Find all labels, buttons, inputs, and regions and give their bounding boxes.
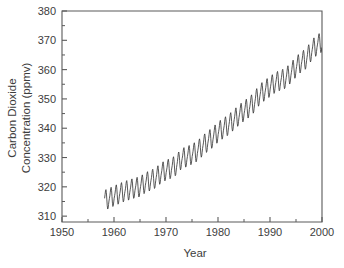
y-tick-label: 330 <box>38 152 56 164</box>
x-tick-label: 2000 <box>310 226 334 238</box>
chart-figure: 195019601970198019902000 310320330340350… <box>0 0 344 268</box>
y-tick-label: 340 <box>38 122 56 134</box>
x-tick-label: 1970 <box>154 226 178 238</box>
y-tick-label: 310 <box>38 210 56 222</box>
y-tick-label: 380 <box>38 5 56 17</box>
x-tick-label: 1960 <box>102 226 126 238</box>
x-axis-title: Year <box>183 247 206 259</box>
y-axis-title-line2: Concentration (ppmv) <box>20 63 32 174</box>
co2-concentration-line-chart: 195019601970198019902000 310320330340350… <box>0 0 344 268</box>
y-tick-label: 350 <box>38 93 56 105</box>
y-tick-label: 360 <box>38 64 56 76</box>
x-tick-label: 1980 <box>206 226 230 238</box>
x-tick-label: 1990 <box>258 226 282 238</box>
y-axis-title-line1: Carbon Dioxide <box>6 78 18 157</box>
x-tick-label: 1950 <box>50 226 74 238</box>
y-tick-label: 370 <box>38 34 56 46</box>
y-tick-label: 320 <box>38 181 56 193</box>
